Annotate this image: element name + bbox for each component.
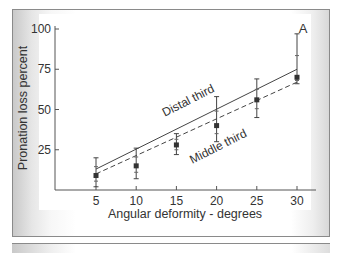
data-point-marker <box>174 142 179 147</box>
y-tick-label: 100 <box>31 22 51 36</box>
annotation-middle-third: Middle third <box>187 126 249 167</box>
data-point-marker <box>214 123 219 128</box>
x-axis-title: Angular deformity - degrees <box>108 207 262 221</box>
data-point-marker <box>254 97 259 102</box>
x-tick-label: 15 <box>170 194 184 208</box>
y-axis-title: Pronation loss percent <box>16 45 30 170</box>
x-tick-label: 10 <box>130 194 144 208</box>
x-tick-label: 30 <box>290 194 304 208</box>
panel-label: A <box>299 21 308 36</box>
x-tick-label: 25 <box>250 194 264 208</box>
data-point-marker <box>94 173 99 178</box>
x-ticks: 51015202530 <box>93 186 304 208</box>
y-tick-label: 50 <box>38 103 52 117</box>
x-tick-label: 5 <box>93 194 100 208</box>
data-point-marker <box>295 75 300 80</box>
y-tick-label: 25 <box>38 143 52 157</box>
data-point-marker <box>134 163 139 168</box>
y-tick-label: 75 <box>38 62 52 76</box>
x-tick-label: 20 <box>210 194 224 208</box>
